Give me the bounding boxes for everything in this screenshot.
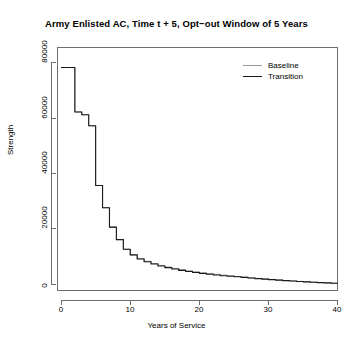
x-tick-label-10: 10 xyxy=(118,305,142,314)
y-tick-label-80000: 80000 xyxy=(32,47,56,56)
y-tick-80000 xyxy=(51,62,56,63)
series-baseline xyxy=(61,68,338,284)
y-tick-60000 xyxy=(51,118,56,119)
x-tick-label-0: 0 xyxy=(49,305,73,314)
x-axis-title: Years of Service xyxy=(0,321,353,330)
y-tick-0 xyxy=(51,284,56,285)
series-transition xyxy=(61,68,338,284)
legend-item-baseline: Baseline xyxy=(243,60,335,71)
chart-legend: Baseline Transition xyxy=(243,60,335,82)
plot-area xyxy=(57,47,338,291)
legend-swatch-baseline xyxy=(243,65,262,66)
y-tick-20000 xyxy=(51,228,56,229)
x-tick-label-30: 30 xyxy=(256,305,280,314)
legend-item-transition: Transition xyxy=(243,71,335,82)
y-tick-label-20000: 20000 xyxy=(32,213,56,222)
x-tick-label-20: 20 xyxy=(187,305,211,314)
chart-title: Army Enlisted AC, Time t + 5, Opt−out Wi… xyxy=(0,18,353,29)
y-tick-label-40000: 40000 xyxy=(32,158,56,167)
y-axis-title: Strength xyxy=(6,125,15,155)
legend-label-transition: Transition xyxy=(268,71,303,82)
legend-swatch-transition xyxy=(243,76,262,78)
x-tick-label-40: 40 xyxy=(325,305,349,314)
y-tick-label-60000: 60000 xyxy=(32,103,56,112)
y-tick-label-0: 0 xyxy=(40,281,48,290)
chart-page: Army Enlisted AC, Time t + 5, Opt−out Wi… xyxy=(0,0,353,356)
legend-label-baseline: Baseline xyxy=(268,60,299,71)
y-tick-40000 xyxy=(51,173,56,174)
